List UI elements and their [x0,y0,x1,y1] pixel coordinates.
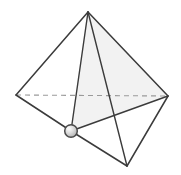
marked-vertex-specular-highlight [67,126,71,130]
figure-canvas [0,0,181,175]
polyhedron-diagram [0,0,181,175]
marked-vertex-sphere-icon [65,125,78,138]
marked-vertex-node[interactable] [65,125,78,138]
